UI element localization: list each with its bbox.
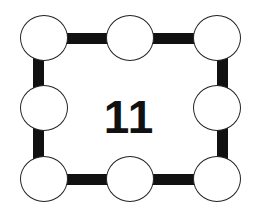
node-bottom-middle[interactable] bbox=[106, 156, 154, 202]
node-bottom-right[interactable] bbox=[193, 156, 241, 202]
node-top-middle[interactable] bbox=[106, 15, 154, 61]
node-top-left[interactable] bbox=[20, 15, 68, 61]
node-bottom-left[interactable] bbox=[20, 156, 68, 202]
magic-square-frame-puzzle: 11 bbox=[0, 0, 258, 219]
node-top-right[interactable] bbox=[193, 15, 241, 61]
target-sum-label: 11 bbox=[0, 92, 258, 142]
